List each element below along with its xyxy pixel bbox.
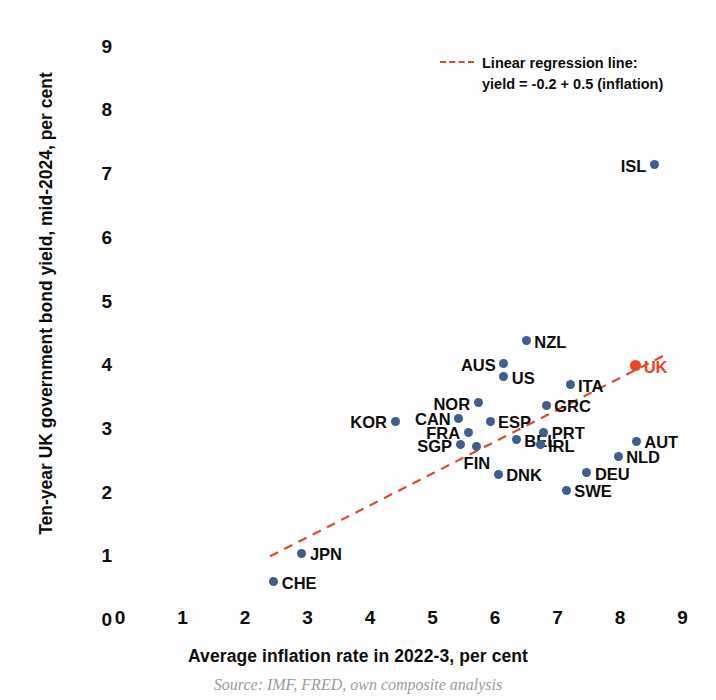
data-point-deu[interactable] — [582, 468, 591, 477]
data-point-label-jpn: JPN — [310, 546, 342, 563]
data-point-label-deu: DEU — [595, 466, 630, 483]
data-point-dnk[interactable] — [494, 470, 503, 479]
legend-dashed-line-icon — [440, 61, 474, 63]
legend-label: Linear regression line: yield = -0.2 + 0… — [482, 53, 663, 94]
x-axis-title: Average inflation rate in 2022-3, per ce… — [0, 646, 716, 667]
scatter-chart: Ten-year UK government bond yield, mid-2… — [0, 0, 716, 700]
source-caption: Source: IMF, FRED, own composite analysi… — [0, 676, 716, 694]
data-point-label-aus: AUS — [461, 357, 496, 374]
data-point-label-uk: UK — [644, 359, 668, 376]
data-point-irl[interactable] — [536, 440, 545, 449]
data-point-uk[interactable] — [630, 360, 641, 371]
data-point-grc[interactable] — [542, 401, 551, 410]
data-point-fra[interactable] — [464, 428, 473, 437]
data-point-prt[interactable] — [539, 428, 548, 437]
data-point-nor[interactable] — [474, 398, 483, 407]
data-point-nld[interactable] — [614, 452, 623, 461]
data-point-label-esp: ESP — [498, 414, 531, 431]
data-point-nzl[interactable] — [522, 336, 531, 345]
data-point-isl[interactable] — [650, 160, 659, 169]
data-point-fin[interactable] — [472, 442, 481, 451]
data-point-label-kor: KOR — [350, 414, 387, 431]
plot-area: ISLUKNZLAUSUSITAGRCNORESPCANFRAKORSGPFIN… — [0, 0, 716, 700]
data-point-kor[interactable] — [391, 417, 400, 426]
data-point-aus[interactable] — [499, 359, 508, 368]
data-point-label-isl: ISL — [621, 158, 647, 175]
regression-line — [0, 0, 716, 700]
data-point-swe[interactable] — [562, 486, 571, 495]
data-point-label-us: US — [512, 370, 535, 387]
data-point-us[interactable] — [499, 372, 508, 381]
data-point-label-prt: PRT — [552, 425, 585, 442]
data-point-label-fin: FIN — [464, 455, 491, 472]
data-point-label-dnk: DNK — [506, 467, 542, 484]
data-point-bel[interactable] — [512, 435, 521, 444]
data-point-ita[interactable] — [566, 380, 575, 389]
data-point-esp[interactable] — [486, 417, 495, 426]
data-point-can[interactable] — [454, 414, 463, 423]
data-point-sgp[interactable] — [456, 440, 465, 449]
data-point-aut[interactable] — [632, 437, 641, 446]
data-point-label-che: CHE — [282, 575, 317, 592]
data-point-che[interactable] — [269, 577, 278, 586]
data-point-label-nld: NLD — [626, 449, 660, 466]
data-point-jpn[interactable] — [297, 549, 306, 558]
data-point-label-ita: ITA — [578, 378, 603, 395]
data-point-label-swe: SWE — [574, 483, 612, 500]
data-point-label-nzl: NZL — [534, 334, 566, 351]
data-point-label-sgp: SGP — [417, 438, 452, 455]
data-point-label-grc: GRC — [554, 398, 591, 415]
